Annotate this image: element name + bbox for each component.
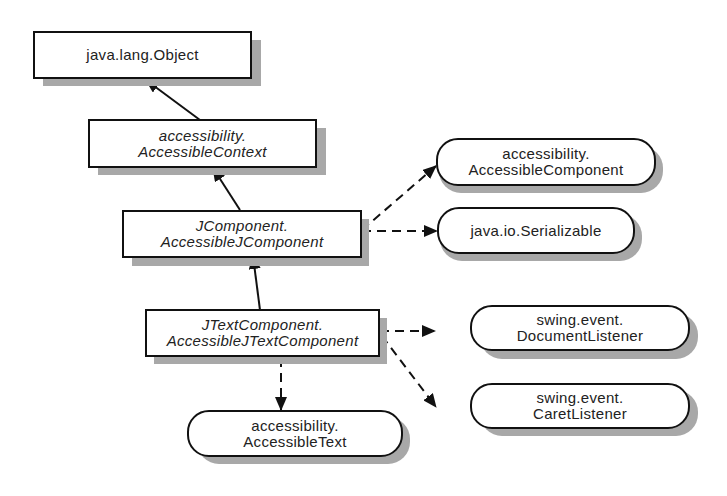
class-name-line: AccessibleContext [138,144,267,160]
class-accessible-jtextcomponent: JTextComponent. AccessibleJTextComponent [145,309,380,357]
class-package-line: JTextComponent. [202,317,324,333]
class-package-line: JComponent. [196,218,289,234]
edge-jcomponent-to-accessiblecomponent [362,166,436,230]
class-name-line: java.lang.Object [86,47,198,63]
class-java-lang-object: java.lang.Object [33,31,252,79]
interface-caret-listener: swing.event. CaretListener [470,383,690,429]
class-name-line: AccessibleJTextComponent [167,333,359,349]
interface-serializable: java.io.Serializable [437,207,635,254]
edge-context-to-object [146,80,200,120]
interface-name-line: AccessibleComponent [469,162,624,178]
interface-name-line: CaretListener [533,406,627,422]
class-accessible-jcomponent: JComponent. AccessibleJComponent [122,210,362,258]
interface-name-line: java.io.Serializable [470,223,601,239]
interface-package-line: swing.event. [537,312,624,328]
interface-name-line: DocumentListener [517,328,644,344]
interface-accessible-component: accessibility. AccessibleComponent [436,138,656,186]
interface-accessible-text: accessibility. AccessibleText [187,410,403,457]
class-accessible-context: accessibility. AccessibleContext [88,119,317,168]
interface-document-listener: swing.event. DocumentListener [470,305,690,351]
edge-jtextcomponent-to-caretlistener [382,336,436,407]
interface-package-line: accessibility. [502,146,589,162]
interface-package-line: accessibility. [251,418,338,434]
class-name-line: AccessibleJComponent [161,234,324,250]
interface-package-line: swing.event. [537,390,624,406]
class-package-line: accessibility. [159,128,246,144]
interface-name-line: AccessibleText [243,434,346,450]
